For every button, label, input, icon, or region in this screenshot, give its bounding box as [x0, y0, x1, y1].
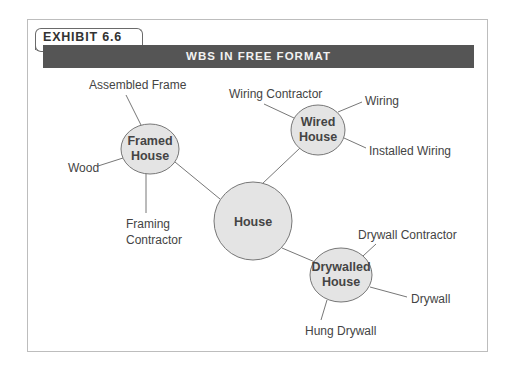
node-wired-house-label-1: Wired	[301, 115, 336, 129]
node-house: House	[214, 182, 292, 260]
wbs-diagram: House Framed House Wired House Drywalled…	[0, 0, 514, 373]
edge-wired-wiring-contractor	[264, 104, 294, 118]
node-drywalled-house-label-1: Drywalled	[311, 260, 370, 274]
node-framed-house: Framed House	[121, 124, 179, 174]
node-drywalled-house: Drywalled House	[310, 248, 372, 302]
node-framed-house-label-2: House	[131, 149, 169, 163]
node-wired-house: Wired House	[291, 105, 345, 155]
leaf-wood: Wood	[68, 161, 99, 175]
node-drywalled-house-label-2: House	[322, 275, 360, 289]
leaf-drywall-contractor: Drywall Contractor	[358, 228, 457, 242]
edge-drywalled-hung-drywall	[321, 300, 327, 320]
leaf-framing-contractor-1: Framing	[126, 217, 170, 231]
edge-house-framed	[175, 162, 220, 199]
leaf-wiring-contractor: Wiring Contractor	[229, 87, 322, 101]
edge-house-wired	[262, 148, 300, 184]
edge-framed-wood	[98, 158, 123, 166]
leaf-hung-drywall: Hung Drywall	[305, 324, 376, 338]
edge-drywalled-drywall	[370, 287, 407, 297]
edge-wired-wiring	[338, 102, 362, 112]
edge-drywalled-drywall-contractor	[363, 244, 376, 256]
leaf-framing-contractor-2: Contractor	[126, 233, 182, 247]
edge-framed-assembled-frame	[126, 95, 141, 125]
edge-wired-installed-wiring	[344, 138, 366, 148]
leaf-drywall: Drywall	[411, 292, 450, 306]
node-wired-house-label-2: House	[299, 130, 337, 144]
leaf-installed-wiring: Installed Wiring	[369, 144, 451, 158]
edge-house-drywalled	[282, 248, 315, 262]
leaf-wiring: Wiring	[365, 94, 399, 108]
leaf-assembled-frame: Assembled Frame	[89, 78, 187, 92]
node-house-label: House	[234, 215, 272, 229]
node-framed-house-label-1: Framed	[127, 134, 172, 148]
